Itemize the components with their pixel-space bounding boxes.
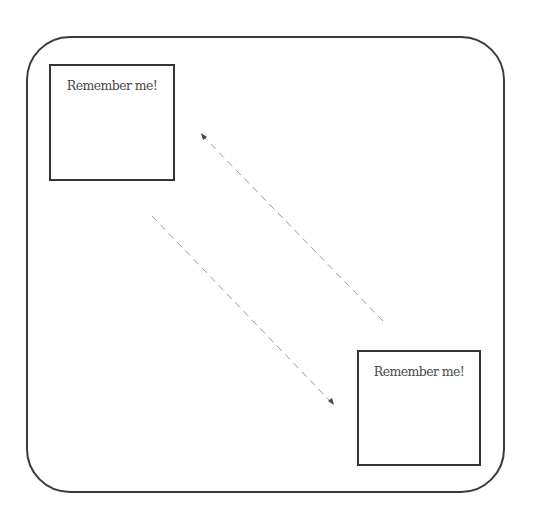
card-label: Remember me! bbox=[359, 364, 479, 379]
card-bottom-right: Remember me! bbox=[357, 350, 481, 466]
card-top-left: Remember me! bbox=[49, 64, 175, 181]
diagram-canvas: Remember me! Remember me! bbox=[0, 0, 536, 517]
card-label: Remember me! bbox=[51, 78, 173, 93]
